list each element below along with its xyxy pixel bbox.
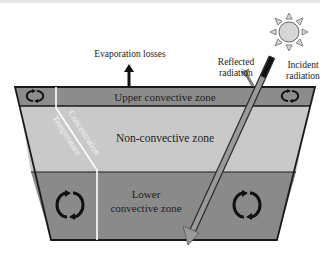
non-convective-zone-label: Non-convective zone	[116, 132, 214, 144]
sun-icon	[270, 13, 308, 51]
reflected-label-line2: radiation	[219, 68, 253, 78]
diagram-canvas: Concentration Temperature Upper convecti…	[0, 0, 330, 254]
lower-zone-label-line1: Lower	[132, 188, 161, 200]
cutoff-title-strip	[0, 0, 320, 3]
arrow-up-icon	[124, 64, 134, 86]
upper-zone-label: Upper convective zone	[114, 91, 216, 103]
incident-label-line2: radiation	[286, 71, 320, 81]
incident-label-line1: Incident	[287, 60, 318, 70]
evaporation-label: Evaporation losses	[94, 49, 166, 59]
solar-pond-diagram: Concentration Temperature Upper convecti…	[0, 0, 330, 254]
reflected-label-line1: Reflected	[218, 57, 255, 67]
lower-zone-label-line2: convective zone	[110, 202, 181, 214]
